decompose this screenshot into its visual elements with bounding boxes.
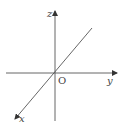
x-axis-line — [15, 28, 92, 119]
x-axis-label: x — [19, 113, 25, 124]
coordinate-diagram: z O y x — [0, 0, 124, 133]
origin-label: O — [58, 75, 66, 86]
z-axis-label: z — [46, 8, 53, 19]
y-axis-label: y — [106, 75, 113, 86]
axes-svg: z O y x — [0, 0, 124, 133]
